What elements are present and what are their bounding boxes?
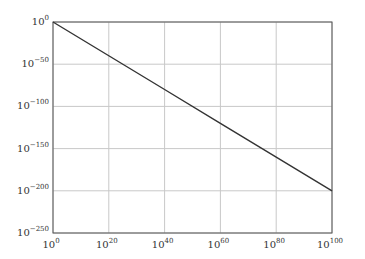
plot-frame: [53, 22, 332, 233]
x-tick-label: 1060: [208, 237, 230, 250]
grid-lines: [53, 22, 332, 233]
y-axis-ticks: 10010−5010−10010−15010−20010−250: [17, 14, 49, 238]
x-axis-ticks: 100102010401060108010100: [42, 237, 343, 250]
y-tick-label: 10−100: [17, 98, 49, 111]
x-tick-label: 1080: [263, 237, 285, 250]
y-tick-label: 100: [32, 14, 49, 27]
x-tick-label: 1020: [96, 237, 118, 250]
line-chart: 100102010401060108010100 10010−5010−1001…: [0, 0, 365, 259]
y-tick-label: 10−150: [17, 141, 49, 154]
x-tick-label: 100: [42, 237, 59, 250]
y-tick-label: 10−250: [17, 225, 49, 238]
x-tick-label: 10100: [317, 237, 343, 250]
x-tick-label: 1040: [152, 237, 174, 250]
y-tick-label: 10−200: [17, 183, 49, 196]
y-tick-label: 10−50: [21, 56, 49, 69]
